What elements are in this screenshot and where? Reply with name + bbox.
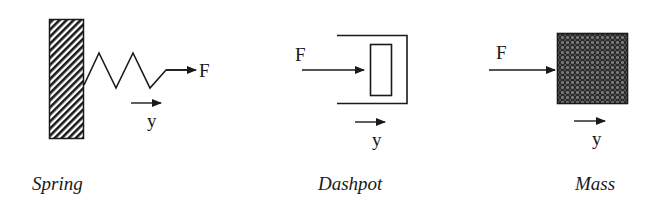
caption-mass: Mass <box>574 173 615 194</box>
force-label: F <box>295 44 306 65</box>
mass-element: F y Mass <box>489 34 628 195</box>
dashpot-element: F y Dashpot <box>295 36 407 195</box>
displacement-label: y <box>592 128 602 149</box>
caption-dashpot: Dashpot <box>317 173 383 194</box>
mass-block <box>558 34 628 104</box>
dashpot-piston <box>371 45 392 96</box>
caption-spring: Spring <box>32 173 83 194</box>
displacement-label: y <box>147 110 157 131</box>
fixed-wall <box>50 20 84 139</box>
force-label: F <box>496 42 507 63</box>
displacement-label: y <box>372 129 382 150</box>
mechanical-elements-diagram: F y Spring F y Dashpot F y Mass <box>0 0 661 214</box>
force-label: F <box>199 60 210 81</box>
spring-element: F y Spring <box>32 20 210 195</box>
